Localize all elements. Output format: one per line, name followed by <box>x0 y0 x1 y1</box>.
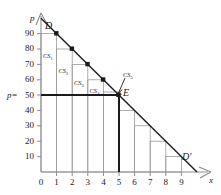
cs5-arrowhead-icon <box>119 90 123 95</box>
demand-bars-right <box>119 110 181 172</box>
x-tick-label-2: 2 <box>67 178 77 187</box>
bar-x2 <box>57 95 73 172</box>
bar-x8 <box>150 141 166 172</box>
cs-label-4: CS4 <box>90 88 100 97</box>
cs-step-1 <box>41 34 57 95</box>
x-tick-label-9: 9 <box>176 178 186 187</box>
bar-x1 <box>41 95 57 172</box>
y-axis-label: p <box>30 14 35 23</box>
bar-x9 <box>166 157 182 172</box>
marker-x4 <box>101 77 105 81</box>
y-tick-label-80: 80 <box>14 44 34 53</box>
bar-x5 <box>103 95 119 172</box>
bar-x3 <box>72 95 88 172</box>
marker-x2 <box>70 47 74 51</box>
y-tick-label-40: 40 <box>14 106 34 115</box>
marker-x3 <box>85 62 89 66</box>
x-tick-label-5: 5 <box>114 178 124 187</box>
x-tick-marks <box>57 172 182 176</box>
x-tick-label-3: 3 <box>83 178 93 187</box>
y-tick-label-20: 20 <box>14 137 34 146</box>
cs-label-4-sub: 4 <box>97 91 99 96</box>
x-tick-label-6: 6 <box>130 178 140 187</box>
marker-x1 <box>54 31 58 35</box>
x-tick-label-8: 8 <box>161 178 171 187</box>
cs-label-3: CS3 <box>74 80 84 89</box>
cs-label-1-text: CS <box>43 52 51 59</box>
cs-label-3-text: CS <box>74 79 82 86</box>
y-tick-label-10: 10 <box>14 152 34 161</box>
y-tick-marks <box>37 34 41 157</box>
x-axis-label: x <box>209 176 213 185</box>
x-tick-label-1: 1 <box>52 178 62 187</box>
cs-label-5: CS5 <box>123 72 133 81</box>
bar-x7 <box>135 126 151 172</box>
cs-label-2-sub: 2 <box>66 71 68 76</box>
cs-label-4-text: CS <box>90 87 98 94</box>
y-tick-label-30: 30 <box>14 121 34 130</box>
cs-label-5-sub: 5 <box>131 75 133 80</box>
x-tick-label-0: 0 <box>36 178 46 187</box>
y-tick-label-50: 50 <box>14 91 34 100</box>
cs-label-5-text: CS <box>123 71 131 78</box>
cs-label-1-sub: 1 <box>51 56 53 61</box>
cs-label-2-text: CS <box>59 67 67 74</box>
y-tick-label-90: 90 <box>14 29 34 38</box>
demand-curve-figure: p x D D' E p= 90 80 70 60 50 40 30 20 10… <box>0 0 221 195</box>
curve-end-label-Dprime: D' <box>182 152 191 162</box>
cs-label-1: CS1 <box>43 53 53 62</box>
equilibrium-label-E: E <box>123 88 129 98</box>
bar-x4 <box>88 95 104 172</box>
y-tick-label-60: 60 <box>14 75 34 84</box>
x-tick-label-4: 4 <box>98 178 108 187</box>
curve-start-label-D: D <box>45 21 52 31</box>
y-tick-label-70: 70 <box>14 60 34 69</box>
demand-bars-left <box>41 95 119 172</box>
cs-label-3-sub: 3 <box>82 83 84 88</box>
bar-x6 <box>119 110 135 172</box>
x-tick-label-7: 7 <box>145 178 155 187</box>
cs-label-2: CS2 <box>59 68 69 77</box>
